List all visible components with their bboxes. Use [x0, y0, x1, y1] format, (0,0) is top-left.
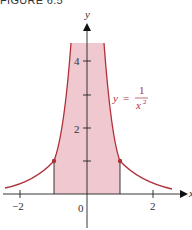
equation-label: y = 1 x 2 [112, 84, 148, 111]
plot-area: −2 0 2 2 4 y x y = 1 x 2 [0, 0, 192, 230]
x-axis-label: x [188, 187, 192, 199]
x-tick-label: −2 [12, 200, 24, 212]
y-axis-label: y [84, 8, 90, 20]
marked-point-left [52, 159, 56, 163]
equation-numerator: 1 [139, 84, 145, 96]
equation-denominator: x [135, 99, 141, 111]
x-axis-arrow-icon [180, 190, 188, 198]
x-tick-label: 2 [150, 200, 156, 212]
equation-exponent: 2 [143, 98, 147, 106]
equation-lhs: y [112, 92, 118, 104]
y-tick-label: 2 [74, 123, 80, 135]
y-tick-label: 4 [74, 55, 80, 67]
y-axis-arrow-icon [83, 23, 91, 31]
equation-equals: = [123, 92, 129, 104]
x-tick-label: 0 [78, 202, 84, 214]
marked-point-right [118, 159, 122, 163]
